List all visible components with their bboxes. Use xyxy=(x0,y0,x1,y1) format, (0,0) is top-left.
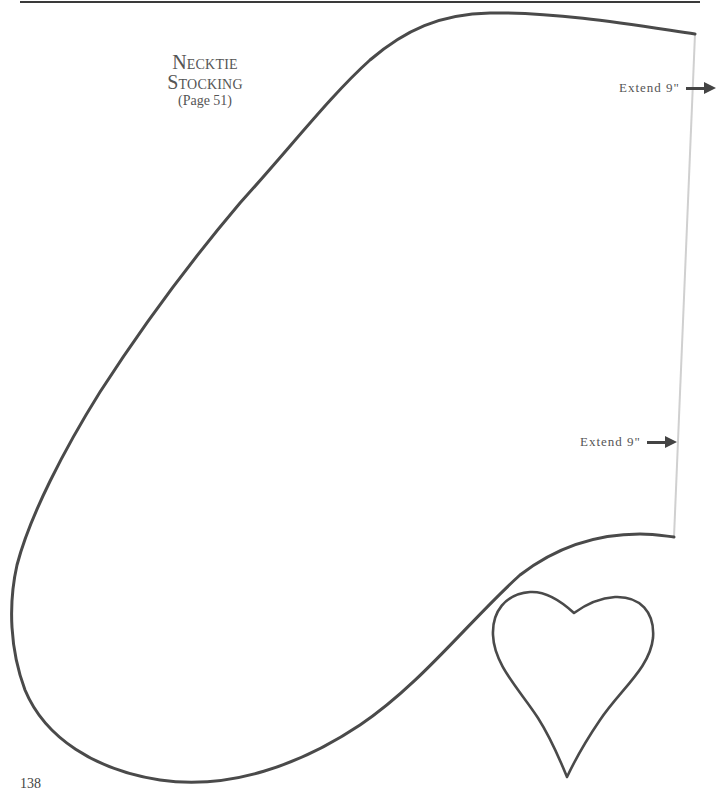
title-line-1: Necktie xyxy=(140,52,270,72)
extend-text-top: Extend 9" xyxy=(619,80,680,96)
heart-outline xyxy=(493,592,653,777)
arrow-right-icon xyxy=(686,82,716,94)
page-reference: (Page 51) xyxy=(140,94,270,108)
page-number: 138 xyxy=(20,776,41,792)
extend-label-bottom: Extend 9" xyxy=(580,434,677,450)
arrow-right-icon xyxy=(647,436,677,448)
title-line-2: Stocking xyxy=(140,72,270,92)
stocking-outline xyxy=(12,13,695,782)
extend-text-bottom: Extend 9" xyxy=(580,434,641,450)
extend-label-top: Extend 9" xyxy=(619,80,716,96)
extension-guide-line xyxy=(674,34,695,537)
pattern-title: Necktie Stocking (Page 51) xyxy=(140,52,270,108)
